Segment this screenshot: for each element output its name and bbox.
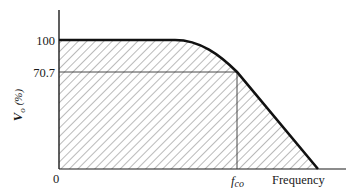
y-axis-label: Vo(%) <box>11 89 27 122</box>
svg-text:Vo(%): Vo(%) <box>11 89 27 122</box>
y-tick-100: 100 <box>36 34 55 48</box>
passband-hatched-area <box>59 40 318 169</box>
x-origin-label: 0 <box>53 172 59 186</box>
y-axis-label-sub: o <box>17 108 27 113</box>
y-tick-70-7: 70.7 <box>33 66 55 80</box>
cutoff-frequency-label: fco <box>231 174 244 189</box>
x-axis-label: Frequency <box>272 173 326 187</box>
y-axis-label-unit: (%) <box>12 89 25 106</box>
frequency-response-diagram: 100 70.7 Vo(%) 0 fco Frequency <box>0 0 360 192</box>
